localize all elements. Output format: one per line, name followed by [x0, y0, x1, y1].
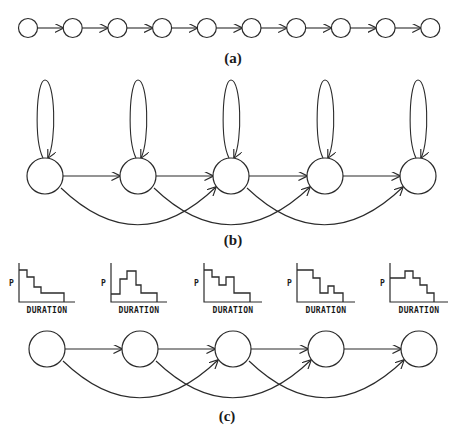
state-node — [308, 331, 344, 367]
state-node — [29, 331, 65, 367]
histogram-steps — [111, 271, 157, 302]
panel-b-self-loops — [37, 80, 427, 158]
histogram-steps — [19, 270, 64, 302]
panel-a-chain: (a) — [19, 19, 440, 68]
state-node — [120, 158, 156, 194]
state-node — [331, 19, 350, 38]
histogram-xlabel: DURATION — [306, 306, 347, 315]
state-node — [215, 331, 251, 367]
duration-histogram-4: P DURATION — [287, 263, 355, 315]
histogram-xlabel: DURATION — [119, 306, 160, 315]
histogram-ylabel: P — [9, 279, 14, 288]
panel-c-graph: P DURATION P DURATION P DURATION P DURAT… — [9, 263, 448, 425]
state-node — [242, 19, 261, 38]
state-node — [197, 19, 216, 38]
histogram-axes — [297, 263, 355, 302]
histogram-ylabel: P — [194, 279, 199, 288]
histogram-xlabel: DURATION — [399, 306, 440, 315]
histogram-ylabel: P — [287, 279, 292, 288]
self-loop-b-1 — [37, 80, 54, 158]
state-node — [108, 19, 127, 38]
histogram-xlabel: DURATION — [213, 306, 254, 315]
caption-b: (b) — [224, 232, 242, 249]
histogram-steps — [390, 271, 434, 302]
self-loop-b-5 — [410, 80, 427, 158]
state-node — [400, 158, 436, 194]
state-node — [421, 19, 440, 38]
state-node — [19, 19, 38, 38]
state-node — [213, 158, 249, 194]
state-node — [63, 19, 82, 38]
state-node — [122, 331, 158, 367]
histogram-steps — [204, 270, 250, 302]
histogram-xlabel: DURATION — [27, 306, 68, 315]
histogram-axes — [204, 263, 262, 302]
duration-histogram-3: P DURATION — [194, 263, 262, 315]
histogram-ylabel: P — [101, 279, 106, 288]
panel-b-graph: (b) — [27, 80, 436, 249]
state-node — [307, 158, 343, 194]
histogram-steps — [297, 270, 343, 302]
state-node — [287, 19, 306, 38]
duration-histogram-5: P DURATION — [380, 263, 448, 315]
self-loop-b-2 — [130, 80, 147, 158]
caption-c: (c) — [219, 408, 236, 425]
caption-a: (a) — [224, 50, 242, 67]
state-diagram-figure: (a) (b) — [0, 0, 465, 431]
self-loop-b-3 — [223, 80, 240, 158]
state-node — [401, 331, 437, 367]
state-node — [376, 19, 395, 38]
histogram-axes — [390, 263, 448, 302]
duration-histogram-2: P DURATION — [101, 263, 167, 315]
histogram-axes — [19, 263, 75, 302]
self-loop-b-4 — [317, 80, 334, 158]
histogram-ylabel: P — [380, 279, 385, 288]
duration-histogram-1: P DURATION — [9, 263, 75, 315]
state-node — [27, 158, 63, 194]
state-node — [153, 19, 172, 38]
